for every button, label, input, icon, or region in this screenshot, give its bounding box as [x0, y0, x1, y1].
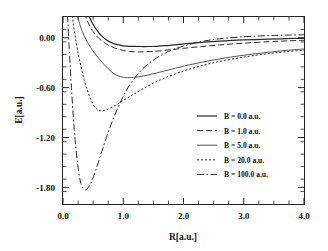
- y-axis-label: E[a.u.]: [14, 96, 24, 123]
- y-tick-label: 0.00: [39, 33, 55, 43]
- legend-label-2: B = 5.0 a.u.: [224, 141, 260, 150]
- legend-label-3: B = 20.0 a.u.: [224, 156, 264, 165]
- y-tick-label: -1.20: [36, 133, 55, 143]
- legend-label-0: B = 0.0 a.u.: [224, 112, 260, 121]
- potential-energy-curve-chart: 0.01.02.03.04.0 0.00-0.60-1.20-1.80 R[a.…: [0, 0, 328, 251]
- legend-label-1: B = 1.0 a.u.: [224, 127, 260, 136]
- y-tick-label: -0.60: [36, 83, 55, 93]
- x-tick-label: 2.0: [178, 211, 190, 221]
- x-tick-label: 4.0: [298, 211, 310, 221]
- y-tick-label: -1.80: [36, 183, 55, 193]
- x-tick-label: 3.0: [238, 211, 250, 221]
- x-axis-label: R[a.u.]: [169, 232, 197, 242]
- chart-figure: 0.01.02.03.04.0 0.00-0.60-1.20-1.80 R[a.…: [0, 0, 328, 251]
- legend-label-4: B = 100.0 a.u.: [224, 170, 268, 179]
- x-tick-label: 1.0: [118, 211, 130, 221]
- x-tick-label: 0.0: [57, 211, 69, 221]
